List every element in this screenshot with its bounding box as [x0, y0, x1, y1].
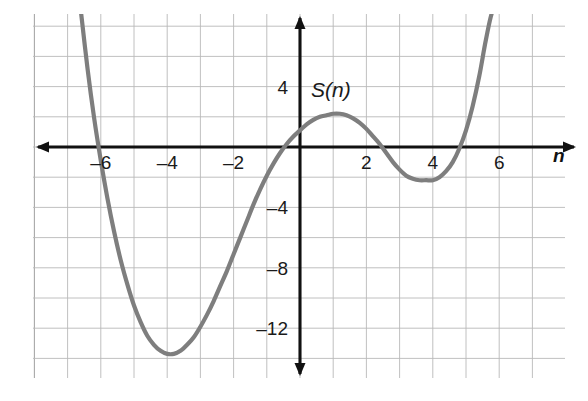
x-axis-name: n — [553, 145, 565, 166]
x-tick-label: –2 — [223, 152, 244, 173]
y-tick-label: 4 — [277, 77, 288, 98]
y-tick-label: –12 — [256, 318, 288, 339]
y-tick-label: –4 — [267, 197, 289, 218]
y-tick-label: –8 — [267, 258, 288, 279]
x-tick-label: 6 — [494, 152, 505, 173]
coordinate-plane: –6–4–2246 4–4–8–12 n S(n) — [0, 0, 588, 401]
x-tick-label: –4 — [157, 152, 179, 173]
x-tick-label: 4 — [428, 152, 439, 173]
graph-figure: –6–4–2246 4–4–8–12 n S(n) — [0, 0, 588, 401]
x-tick-label: 2 — [361, 152, 372, 173]
x-tick-label: –6 — [90, 152, 111, 173]
function-label: S(n) — [311, 78, 351, 101]
